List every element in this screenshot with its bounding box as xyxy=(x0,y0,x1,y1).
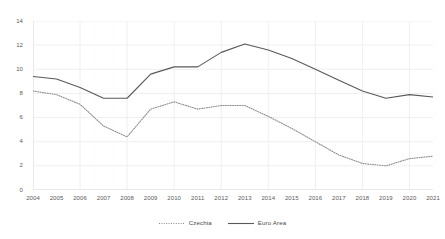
x-axis-tick-label: 2011 xyxy=(185,194,211,202)
x-axis-tick-label: 2012 xyxy=(208,194,234,202)
legend-label: Euro Area xyxy=(258,219,286,227)
line-chart: 02468101214 2004200520062007200820092010… xyxy=(0,0,445,239)
series-line-euro-area xyxy=(33,44,433,98)
x-axis-tick-label: 2021 xyxy=(420,194,445,202)
x-axis-tick-label: 2006 xyxy=(67,194,93,202)
y-axis-tick-label: 12 xyxy=(1,42,23,49)
plot-area xyxy=(33,21,433,190)
legend-item-czechia[interactable]: Czechia xyxy=(159,219,212,227)
y-axis-tick-label: 6 xyxy=(1,114,23,121)
x-axis-tick-label: 2015 xyxy=(279,194,305,202)
y-axis-tick-label: 10 xyxy=(1,66,23,73)
plot-svg xyxy=(33,21,433,190)
series-line-czechia xyxy=(33,91,433,166)
chart-legend: CzechiaEuro Area xyxy=(0,216,445,230)
y-axis-tick-label: 8 xyxy=(1,90,23,97)
legend-item-euro-area[interactable]: Euro Area xyxy=(228,219,286,227)
x-axis-tick-label: 2017 xyxy=(326,194,352,202)
x-axis-tick-label: 2016 xyxy=(302,194,328,202)
x-axis-tick-label: 2018 xyxy=(349,194,375,202)
y-axis-tick-label: 4 xyxy=(1,138,23,145)
legend-label: Czechia xyxy=(189,219,212,227)
series-lines xyxy=(33,44,433,166)
x-axis-tick-label: 2010 xyxy=(161,194,187,202)
y-axis-tick-label: 14 xyxy=(1,18,23,25)
x-axis-tick-label: 2009 xyxy=(138,194,164,202)
x-axis: 2004200520062007200820092010201120122013… xyxy=(33,194,433,206)
x-axis-tick-label: 2019 xyxy=(373,194,399,202)
x-axis-tick-label: 2020 xyxy=(396,194,422,202)
legend-swatch-solid xyxy=(228,220,254,227)
x-axis-tick-label: 2008 xyxy=(114,194,140,202)
x-axis-tick-label: 2007 xyxy=(91,194,117,202)
y-axis-tick-label: 2 xyxy=(1,162,23,169)
legend-swatch-dotted xyxy=(159,220,185,227)
x-axis-tick-label: 2004 xyxy=(20,194,46,202)
y-axis-tick-label: 0 xyxy=(1,187,23,194)
x-axis-tick-label: 2014 xyxy=(255,194,281,202)
y-axis: 02468101214 xyxy=(0,0,30,239)
x-axis-tick-label: 2005 xyxy=(44,194,70,202)
x-axis-tick-label: 2013 xyxy=(232,194,258,202)
